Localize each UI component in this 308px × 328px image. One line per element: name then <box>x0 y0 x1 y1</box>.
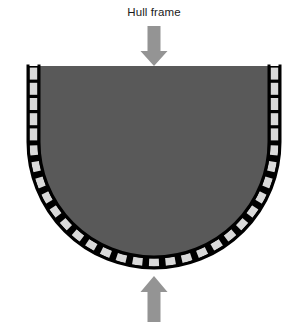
frame-segment <box>30 128 38 140</box>
frame-segment <box>165 257 176 266</box>
frame-segment <box>271 113 279 125</box>
frame-segment <box>30 68 38 80</box>
downward-load-arrow-icon <box>141 26 168 66</box>
frame-segment <box>30 145 38 155</box>
hull-frame-diagram: Hull frame <box>0 0 308 328</box>
frame-segment <box>30 83 38 95</box>
upward-reaction-arrow-icon <box>141 276 168 322</box>
frame-segment <box>149 259 159 267</box>
frame-segment <box>30 98 38 110</box>
frame-segment <box>271 68 279 80</box>
frame-segment <box>271 98 279 110</box>
hull-cross-section-svg <box>0 0 308 328</box>
frame-segment <box>30 113 38 125</box>
frame-segment <box>271 83 279 95</box>
frame-segment <box>271 128 279 140</box>
frame-segment <box>270 145 278 155</box>
frame-segment <box>132 257 143 266</box>
